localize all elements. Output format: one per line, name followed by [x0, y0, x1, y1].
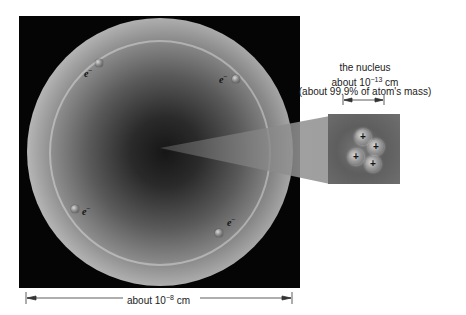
proton-icon: +: [368, 139, 384, 155]
proton-icon: +: [348, 149, 364, 165]
electron-bottom-left: [71, 205, 79, 213]
nucleus-mass-note: (about 99.9% of atom's mass): [292, 86, 438, 98]
electron-label-top-left: e−: [84, 68, 92, 79]
electron-top-left: [95, 59, 103, 67]
magnification-wedge: [160, 116, 330, 184]
proton-icon: +: [365, 156, 381, 172]
atom-size-label: about 10−8 cm: [124, 292, 193, 307]
electron-top-right: [232, 75, 240, 83]
nucleus-title: the nucleus: [300, 62, 430, 74]
electron-label-bottom-right: e−: [227, 217, 235, 228]
nucleus-inset: + + + +: [328, 114, 400, 184]
electron-bottom-right: [215, 229, 223, 237]
electron-label-bottom-left: e−: [82, 206, 90, 217]
electron-label-top-right: e−: [219, 74, 227, 85]
